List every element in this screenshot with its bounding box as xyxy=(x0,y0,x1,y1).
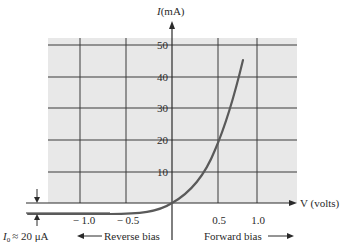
y-axis-title: I(mA) xyxy=(156,5,185,18)
svg-text:− 0.5: − 0.5 xyxy=(117,214,140,226)
x-axis-title: V (volts) xyxy=(300,197,340,210)
svg-text:30: 30 xyxy=(157,102,169,114)
saturation-current-label: I0≈ 20 μA xyxy=(2,230,49,244)
svg-text:0.5: 0.5 xyxy=(212,214,226,226)
svg-text:50: 50 xyxy=(157,39,169,51)
left-arrow-icon xyxy=(77,233,84,239)
right-arrow-icon xyxy=(287,233,294,239)
diode-iv-chart: 50 40 30 20 10 − 1.0 − 0.5 0.5 1.0 I0≈ 2… xyxy=(0,0,358,251)
svg-text:Reverse bias: Reverse bias xyxy=(104,230,160,242)
svg-text:20: 20 xyxy=(157,134,169,146)
svg-text:1.0: 1.0 xyxy=(251,214,265,226)
x-tick-labels: − 1.0 − 0.5 0.5 1.0 xyxy=(73,214,266,226)
y-axis-arrow-icon xyxy=(169,21,175,29)
reverse-bias-annotation: Reverse bias xyxy=(77,230,160,242)
svg-text:40: 40 xyxy=(157,71,169,83)
svg-text:− 1.0: − 1.0 xyxy=(73,214,96,226)
forward-bias-annotation: Forward bias xyxy=(204,230,294,242)
saturation-arrows-icon xyxy=(34,189,40,226)
svg-text:10: 10 xyxy=(157,166,169,178)
svg-text:Forward bias: Forward bias xyxy=(204,230,262,242)
